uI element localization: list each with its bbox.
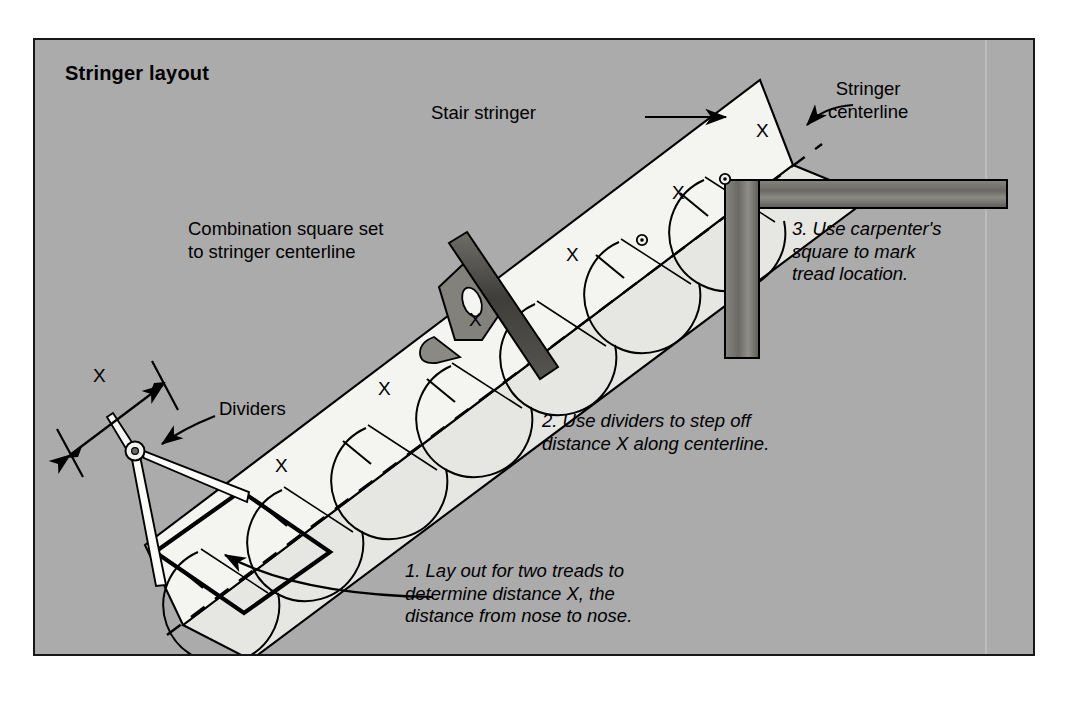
x-mark-1: X [756,120,769,142]
x-mark-2: X [672,182,685,204]
illustration-page: Stringer layout Stair stringer Stringer … [0,0,1068,702]
step-3-text: 3. Use carpenter's square to mark tread … [792,218,942,286]
x-dimension-label: X [93,365,106,387]
x-mark-5: X [378,378,391,400]
step-2-text: 2. Use dividers to step off distance X a… [542,410,769,455]
page-title: Stringer layout [65,62,209,85]
x-mark-3: X [566,244,579,266]
stringer-layout-panel: Stringer layout Stair stringer Stringer … [33,38,1035,656]
x-mark-4: X [469,309,482,331]
label-dividers: Dividers [219,398,286,421]
label-stringer-centerline: Stringer centerline [828,78,908,123]
label-combination-square: Combination square set to stringer cente… [188,218,383,263]
step-1-text: 1. Lay out for two treads to determine d… [405,560,632,628]
x-mark-6: X [275,455,288,477]
label-stair-stringer: Stair stringer [431,102,536,125]
leader-dividers [162,416,215,444]
